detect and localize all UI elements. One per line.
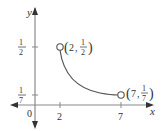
y-tick-half-den: 2 <box>19 48 23 57</box>
y-tick-half-num: 1 <box>19 38 23 47</box>
annotation-start: ( 2 , 1 2 ) <box>64 38 93 57</box>
open-point-end <box>118 92 124 98</box>
graph: y x 0 2 7 1 2 1 7 ( 2 , 1 2 ) ( 7 , 1 7 … <box>0 0 162 131</box>
annotation-end-x: 7 <box>131 88 136 99</box>
x-tick-label-2: 2 <box>57 111 62 122</box>
x-axis-left-arrow-icon <box>10 102 18 108</box>
paren-close: ) <box>88 40 93 56</box>
annotation-start-num: 1 <box>81 38 85 47</box>
curve <box>60 50 118 95</box>
annotation-start-x: 2 <box>69 42 74 53</box>
origin-label: 0 <box>27 108 32 119</box>
x-axis-label: x <box>149 105 155 117</box>
y-tick-seventh-den: 7 <box>19 96 23 105</box>
y-axis-down-arrow-icon <box>32 121 38 129</box>
annotation-start-den: 2 <box>81 48 85 57</box>
annotation-end-den: 7 <box>142 94 146 103</box>
y-axis-up-arrow-icon <box>32 7 38 15</box>
y-axis-label: y <box>26 6 32 18</box>
y-tick-seventh-num: 1 <box>19 86 23 95</box>
annotation-end-num: 1 <box>142 84 146 93</box>
paren-close: ) <box>149 86 154 102</box>
open-point-start <box>57 44 63 50</box>
annotation-end: ( 7 , 1 7 ) <box>126 84 154 103</box>
x-tick-label-7: 7 <box>118 111 123 122</box>
comma: , <box>75 42 78 53</box>
comma: , <box>137 88 140 99</box>
